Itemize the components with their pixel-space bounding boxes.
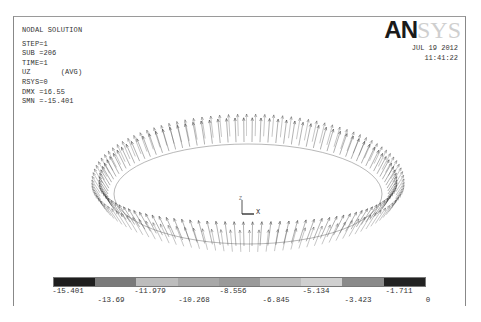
displacement-arrows [92, 114, 404, 252]
contour-legend-bar [53, 277, 426, 287]
legend-segment-3 [136, 278, 177, 286]
legend-segment-4 [178, 278, 219, 286]
legend-segment-6 [260, 278, 301, 286]
legend-segment-8 [342, 278, 383, 286]
legend-segment-1 [54, 278, 95, 286]
triad-z-label: Z [239, 196, 242, 202]
legend-segment-9 [384, 278, 425, 286]
vector-plot-canvas: Z X [0, 0, 481, 322]
legend-segment-7 [301, 278, 342, 286]
triad-x-label: X [256, 208, 261, 216]
legend-segment-5 [219, 278, 260, 286]
coordinate-triad-icon: Z X [239, 196, 261, 216]
legend-segment-2 [95, 278, 136, 286]
